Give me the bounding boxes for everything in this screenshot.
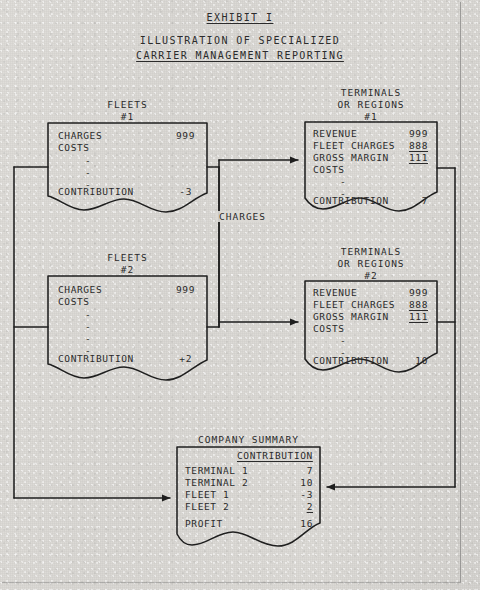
summary-total-label: PROFIT: [185, 518, 223, 529]
fleet1-row-label-0: CHARGES: [58, 130, 102, 141]
terminal2-row-label-0: REVENUE: [313, 287, 357, 298]
summary-row-value-0: 7: [255, 465, 313, 476]
fleet1-dash-1: -: [85, 167, 91, 178]
terminal2-row-value-0: 999: [370, 287, 428, 298]
terminal2-row-value-1: 888: [370, 299, 428, 310]
fleet2-caption-line-1: FLEETS: [48, 252, 207, 263]
terminal1-row-value-2: 111: [370, 152, 428, 163]
terminal2-row-value-2: 111: [370, 311, 428, 322]
terminal1-dash-0: -: [340, 176, 346, 187]
summary-column-header: CONTRIBUTION: [237, 450, 313, 461]
summary-total-value: 16: [255, 518, 313, 529]
fleet2-row-value-0: 999: [120, 284, 195, 295]
fleet1-dash-0: -: [85, 155, 91, 166]
fleet1-caption-line-1: FLEETS: [48, 99, 207, 110]
terminal1-total-value: 7: [370, 195, 428, 206]
exhibit-label: EXHIBIT I: [0, 12, 480, 23]
fleet1-row-value-0: 999: [120, 130, 195, 141]
title-line-2: CARRIER MANAGEMENT REPORTING: [0, 50, 480, 61]
terminal1-row-label-0: REVENUE: [313, 128, 357, 139]
fleet1-caption-line-2: #1: [48, 111, 207, 122]
terminal1-caption-line-2: OR REGIONS: [305, 99, 437, 110]
terminal2-caption-line-1: TERMINALS: [305, 246, 437, 257]
fleet2-total-value: +2: [120, 353, 192, 364]
terminal2-dash-0: -: [340, 335, 346, 346]
terminal2-caption-line-2: OR REGIONS: [305, 258, 437, 269]
fleet2-dash-0: -: [85, 309, 91, 320]
summary-row-value-3: 2: [255, 501, 313, 512]
terminal1-row-value-0: 999: [370, 128, 428, 139]
summary-row-label-2: FLEET 1: [185, 489, 229, 500]
terminal1-caption-line-3: #1: [305, 111, 437, 122]
summary-row-label-3: FLEET 2: [185, 501, 229, 512]
charges-connector-label: CHARGES: [216, 211, 269, 222]
summary-row-label-0: TERMINAL 1: [185, 465, 248, 476]
fleet1-row-label-1: COSTS: [58, 142, 90, 153]
fleet2-dash-1: -: [85, 321, 91, 332]
terminal2-row-label-3: COSTS: [313, 323, 345, 334]
fleet2-row-label-1: COSTS: [58, 296, 90, 307]
title-line-1: ILLUSTRATION OF SPECIALIZED: [0, 35, 480, 46]
terminal2-caption-line-3: #2: [305, 270, 437, 281]
fleet2-row-label-0: CHARGES: [58, 284, 102, 295]
fleet2-dash-2: -: [85, 333, 91, 344]
summary-caption: COMPANY SUMMARY: [177, 434, 320, 445]
terminal1-row-value-1: 888: [370, 140, 428, 151]
summary-row-value-1: 10: [255, 477, 313, 488]
fleet1-total-value: -3: [120, 186, 192, 197]
fleet2-caption-line-2: #2: [48, 264, 207, 275]
summary-row-value-2: -3: [255, 489, 313, 500]
summary-row-label-1: TERMINAL 2: [185, 477, 248, 488]
terminal1-row-label-3: COSTS: [313, 164, 345, 175]
terminal1-caption-line-1: TERMINALS: [305, 87, 437, 98]
terminal2-total-value: 10: [370, 355, 428, 366]
